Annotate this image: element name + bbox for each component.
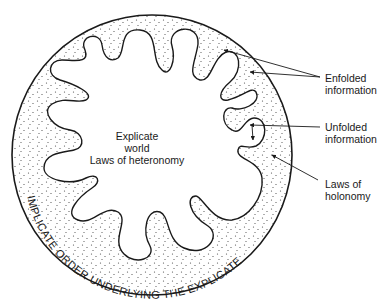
svg-text:holonomy: holonomy [325,190,371,202]
center-label-line1: Explicate [116,130,159,142]
callout-unfolded: Unfolded information [325,121,377,145]
svg-text:Unfolded: Unfolded [325,121,367,133]
callout-enfolded: Enfolded information [325,72,377,96]
center-label-line3: Laws of heteronomy [90,154,185,166]
callout-holonomy: Laws of holonomy [325,178,371,202]
svg-text:Laws of: Laws of [325,178,361,190]
svg-text:information: information [325,133,377,145]
center-label-line2: world [123,142,149,154]
svg-text:Enfolded: Enfolded [325,72,367,84]
implicate-order-diagram: IMPLICATE ORDER UNDERLYING THE EXPLICATE… [0,0,391,307]
svg-text:information: information [325,84,377,96]
